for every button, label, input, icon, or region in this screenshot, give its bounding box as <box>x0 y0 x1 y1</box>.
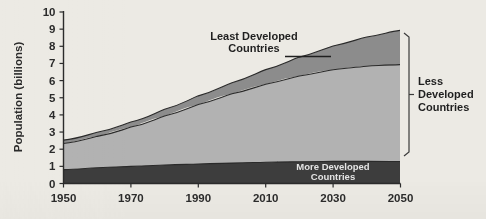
x-tick-label: 1970 <box>118 192 144 204</box>
y-tick-label: 8 <box>49 40 56 52</box>
x-tick-label: 1950 <box>51 192 77 204</box>
less-developed-label-line1: Less <box>418 75 443 87</box>
area-less-developed-countries <box>64 65 401 170</box>
x-tick-label: 1990 <box>186 192 212 204</box>
annotation-less-developed: Less Developed Countries <box>404 33 474 156</box>
y-axis-title: Population (billions) <box>12 42 24 153</box>
chart-figure: 012345678910 195019701990201020302050 Po… <box>0 0 486 219</box>
y-axis-tick-labels: 012345678910 <box>43 6 56 190</box>
least-developed-label-line1: Least Developed <box>210 30 297 42</box>
y-tick-label: 5 <box>49 92 56 104</box>
less-developed-label-line2: Developed <box>418 88 474 100</box>
y-tick-label: 3 <box>49 126 55 138</box>
y-tick-label: 9 <box>49 23 55 35</box>
less-developed-label-line3: Countries <box>418 101 469 113</box>
x-tick-label: 2050 <box>388 192 414 204</box>
annotation-least-developed: Least Developed Countries <box>210 30 331 57</box>
x-tick-label: 2030 <box>320 192 346 204</box>
y-tick-label: 4 <box>49 109 56 121</box>
x-tick-label: 2010 <box>253 192 279 204</box>
x-axis-tick-labels: 195019701990201020302050 <box>51 192 414 204</box>
y-tick-label: 7 <box>49 57 55 69</box>
y-tick-label: 10 <box>43 6 56 18</box>
y-tick-label: 0 <box>49 178 55 190</box>
y-tick-label: 6 <box>49 75 55 87</box>
y-tick-label: 1 <box>49 160 56 172</box>
more-developed-label-line2: Countries <box>311 171 355 182</box>
y-tick-label: 2 <box>49 143 55 155</box>
less-developed-bracket <box>404 33 409 156</box>
population-area-chart: 012345678910 195019701990201020302050 Po… <box>0 0 486 219</box>
least-developed-label-line2: Countries <box>228 42 279 54</box>
